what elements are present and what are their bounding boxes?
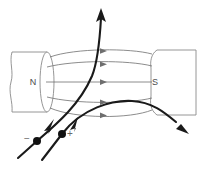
positive-charge-label: +	[67, 128, 73, 139]
field-line-arrow-5	[100, 113, 107, 119]
diagram-canvas: Charged particles deflected in a magneti…	[0, 0, 203, 170]
positive-particle-dot	[58, 130, 66, 138]
negative-charge-label: −	[24, 133, 30, 144]
field-line-arrow-1	[100, 48, 107, 54]
south-pole: S	[151, 50, 196, 115]
field-line-2	[47, 62, 152, 67]
magnetic-field-deflection-diagram: Charged particles deflected in a magneti…	[0, 0, 203, 170]
north-pole-label: N	[30, 77, 37, 87]
positive-particle-exit-arrow	[176, 124, 189, 134]
negative-particle-dot	[33, 137, 41, 145]
south-pole-label: S	[152, 77, 158, 87]
field-line-arrow-2	[100, 61, 107, 67]
field-line-arrow-3	[100, 79, 107, 85]
